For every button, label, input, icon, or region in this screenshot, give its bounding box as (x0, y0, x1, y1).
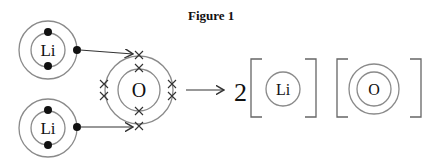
electron-dot (44, 62, 52, 70)
electron-dot (44, 106, 52, 114)
electron-transfer-arrow-top (80, 50, 133, 54)
atom-symbol: Li (40, 119, 55, 138)
ion-symbol: Li (276, 81, 291, 98)
lithium-ion: Li (251, 59, 316, 117)
lithium-atom-top: Li (19, 21, 81, 79)
figure-title: Figure 1 (188, 8, 234, 23)
valence-electron-dot (73, 123, 81, 131)
electron-dot (44, 28, 52, 36)
oxide-ion: O (337, 59, 421, 117)
electron-dot (44, 141, 52, 149)
oxygen-atom: O (100, 51, 176, 130)
bracket-left (337, 59, 348, 117)
bracket-right (305, 59, 316, 117)
coefficient: 2 (234, 78, 247, 107)
atom-symbol: O (132, 79, 146, 101)
lithium-atom-bottom: Li (19, 99, 81, 157)
bracket-left (251, 59, 262, 117)
ionic-bonding-diagram: Figure 1 Li Li O (0, 0, 431, 163)
ion-symbol: O (368, 81, 380, 98)
atom-symbol: Li (40, 41, 55, 60)
bracket-right (410, 59, 421, 117)
valence-electron-dot (73, 46, 81, 54)
